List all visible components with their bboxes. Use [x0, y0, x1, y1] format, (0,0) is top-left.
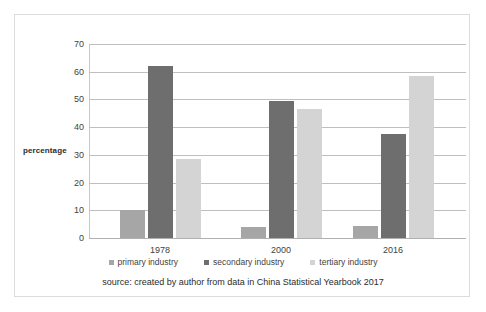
bar-primary-2000 [241, 227, 266, 238]
bar-primary-2016 [353, 226, 378, 238]
x-tick-2016: 2016 [338, 245, 448, 255]
bar-primary-1978 [120, 210, 145, 238]
bar-group-2000 [226, 44, 336, 238]
x-tick-2000: 2000 [226, 245, 336, 255]
x-tick-1978: 1978 [105, 245, 215, 255]
legend-item-tertiary-industry: tertiary industry [310, 257, 377, 267]
bar-secondary-2000 [269, 101, 294, 238]
bar-tertiary-1978 [176, 159, 201, 238]
legend-label-tertiary: tertiary industry [319, 257, 377, 267]
legend-item-primary-industry: primary industry [109, 257, 178, 267]
y-tick-70: 70 [44, 40, 84, 49]
source-caption: source: created by author from data in C… [15, 277, 471, 287]
legend-label-secondary: secondary industry [213, 257, 284, 267]
y-tick-60: 60 [44, 68, 84, 77]
chart-legend: primary industry secondary industry tert… [29, 257, 457, 267]
bar-secondary-1978 [148, 66, 173, 238]
y-tick-0: 0 [44, 234, 84, 243]
plot-area: 70 60 50 40 30 20 10 0 1978 2000 2016 [89, 44, 466, 238]
chart-figure: percentage 70 60 50 40 30 20 10 0 [14, 14, 470, 297]
axis-baseline [89, 238, 466, 239]
legend-item-secondary-industry: secondary industry [204, 257, 284, 267]
bar-secondary-2016 [381, 134, 406, 238]
legend-label-primary: primary industry [118, 257, 178, 267]
legend-swatch-icon-primary [109, 260, 114, 265]
bar-tertiary-2000 [297, 109, 322, 238]
y-tick-50: 50 [44, 95, 84, 104]
y-tick-10: 10 [44, 206, 84, 215]
y-tick-40: 40 [44, 123, 84, 132]
y-axis-line [89, 44, 90, 238]
bar-group-2016 [338, 44, 448, 238]
bar-tertiary-2016 [409, 76, 434, 238]
y-tick-20: 20 [44, 179, 84, 188]
legend-swatch-icon-secondary [204, 260, 209, 265]
legend-swatch-icon-tertiary [310, 260, 315, 265]
y-tick-30: 30 [44, 151, 84, 160]
bar-group-1978 [105, 44, 215, 238]
